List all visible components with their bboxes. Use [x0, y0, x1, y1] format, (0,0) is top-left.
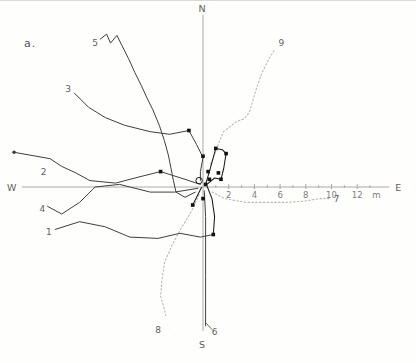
track-9-path — [211, 51, 274, 164]
position-marker — [206, 170, 210, 174]
position-marker — [224, 152, 228, 156]
track-1-path — [55, 222, 213, 239]
track-3-label: 3 — [65, 84, 71, 94]
position-marker — [208, 178, 212, 182]
track-5-label: 5 — [92, 38, 98, 48]
track-2-end-dot — [12, 151, 16, 155]
position-marker — [204, 183, 208, 187]
track-9-label: 9 — [279, 38, 285, 48]
axis-tick-label: 8 — [303, 190, 308, 200]
track-2-label: 2 — [41, 167, 47, 177]
track-3-path — [75, 93, 204, 180]
track-8-label: 8 — [155, 325, 161, 335]
position-marker — [159, 170, 163, 174]
track-1-label: 1 — [46, 227, 52, 237]
position-marker — [214, 147, 218, 151]
axis-tick-label: 12 — [352, 190, 363, 200]
west-label: W — [7, 182, 17, 193]
position-marker — [191, 203, 195, 207]
position-marker — [217, 171, 221, 175]
axis-tick-label: 4 — [252, 190, 257, 200]
track-6-label: 6 — [212, 327, 218, 337]
track-8-path — [161, 195, 200, 316]
position-marker — [219, 178, 223, 182]
axis-unit-label: m — [372, 190, 380, 200]
east-label: E — [395, 182, 401, 193]
track-4-label: 4 — [40, 204, 46, 214]
track-plot: 24681012mNSWE789123456 — [0, 1, 416, 363]
track-7-label: 7 — [334, 194, 340, 204]
position-marker — [212, 233, 216, 237]
figure-panel: a. 24681012mNSWE789123456 — [0, 0, 416, 363]
south-label: S — [199, 339, 205, 350]
track-5-path — [100, 34, 195, 197]
position-marker — [187, 129, 191, 133]
north-label: N — [198, 3, 205, 14]
axis-tick-label: 6 — [277, 190, 282, 200]
position-marker — [201, 197, 205, 201]
track-6-path — [204, 191, 205, 326]
position-marker — [201, 154, 205, 158]
release-point-circle — [196, 177, 202, 183]
marked-route-segment-3 — [193, 187, 202, 205]
